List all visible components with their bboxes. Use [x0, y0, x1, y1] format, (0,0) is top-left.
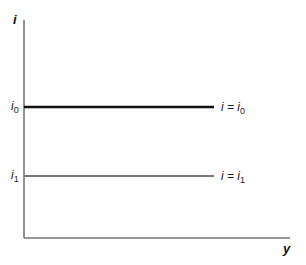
diagram-canvas — [0, 0, 306, 265]
line-label-i1: i = i1 — [221, 170, 245, 185]
tick-label-i1: i1 — [11, 169, 19, 184]
y-axis-label: i — [13, 13, 17, 26]
line-label-i0: i = i0 — [221, 101, 245, 116]
x-axis-label: y — [283, 242, 290, 255]
tick-label-i0: i0 — [11, 100, 19, 115]
